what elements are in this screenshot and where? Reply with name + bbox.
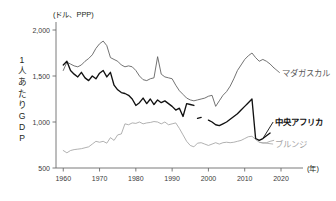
x-tick-label: 2020 (273, 175, 289, 182)
x-tick-label: 1980 (128, 175, 144, 182)
y-tick-label: 1,500 (32, 73, 50, 80)
x-tick-label: 1990 (164, 175, 180, 182)
leader-line-madagascar (274, 68, 280, 73)
leader-line-central-africa (263, 122, 273, 139)
x-tick-label: 1960 (55, 175, 71, 182)
gdp-per-capita-line-chart: 5001,0001,5002,0001960197019801990200020… (0, 0, 336, 201)
series-line-1 (198, 117, 202, 118)
y-axis-name-char: あ (18, 77, 27, 87)
series-label-central-africa: 中央アフリカ (275, 117, 323, 127)
series-line-0 (63, 41, 273, 106)
y-axis-name-char: た (18, 89, 27, 99)
y-tick-label: 1,000 (32, 119, 50, 126)
y-tick-label: 500 (38, 165, 50, 172)
x-axis-name-label: (年) (307, 164, 319, 173)
y-axis-name-char: 人 (18, 66, 27, 76)
y-axis-name-char: り (18, 100, 27, 110)
y-axis-unit-label: (ドル、PPP) (53, 10, 94, 19)
y-tick-label: 2,000 (32, 27, 50, 34)
y-axis-name-char: G (19, 111, 26, 121)
x-tick-label: 2010 (237, 175, 253, 182)
series-line-2 (63, 122, 273, 153)
series-label-madagascar: マダガスカル (282, 68, 330, 78)
y-axis-name-char: 1 (20, 55, 25, 65)
series-line-1 (63, 61, 194, 116)
y-axis-name-char: P (19, 133, 25, 143)
y-axis-name-char: D (19, 122, 25, 132)
x-tick-label: 1970 (92, 175, 108, 182)
x-tick-label: 2000 (201, 175, 217, 182)
chart-canvas: 5001,0001,5002,0001960197019801990200020… (0, 0, 336, 201)
series-label-burundi: ブルンジ (275, 139, 307, 149)
series-line-1 (208, 99, 270, 140)
